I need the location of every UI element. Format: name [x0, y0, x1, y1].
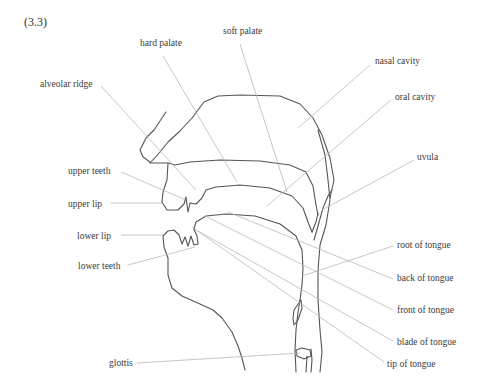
label-upper-teeth: upper teeth — [68, 166, 111, 176]
leader-soft-palate — [240, 44, 287, 192]
label-blade-of-tongue: blade of tongue — [397, 337, 456, 347]
label-upper-lip: upper lip — [68, 199, 102, 209]
glottis-right-fold — [311, 349, 312, 372]
label-alveolar-ridge: alveolar ridge — [40, 79, 93, 89]
label-uvula: uvula — [417, 152, 439, 162]
leader-lines — [101, 44, 414, 363]
leader-hard-palate — [163, 56, 237, 182]
nose-line — [140, 112, 166, 162]
anatomy-outline — [140, 95, 334, 372]
leader-alveolar-ridge — [101, 86, 196, 190]
nasal-floor — [150, 160, 318, 215]
label-soft-palate: soft palate — [223, 26, 262, 36]
leader-upper-teeth — [121, 172, 186, 200]
leader-front-of-tongue — [205, 216, 393, 310]
leader-lower-teeth — [128, 247, 195, 265]
label-back-of-tongue: back of tongue — [397, 273, 453, 283]
label-tip-of-tongue: tip of tongue — [387, 359, 436, 369]
label-glottis: glottis — [109, 358, 133, 368]
leader-tip-of-tongue — [192, 227, 384, 362]
figure-number: (3.3) — [24, 15, 47, 29]
leader-nasal-cavity — [298, 65, 370, 128]
label-nasal-cavity: nasal cavity — [375, 56, 420, 66]
nasal-cavity-outline — [150, 95, 334, 198]
label-root-of-tongue: root of tongue — [397, 240, 451, 250]
label-lower-lip: lower lip — [77, 231, 111, 241]
label-hard-palate: hard palate — [140, 38, 182, 48]
upper-lip-outline — [162, 163, 312, 232]
vocal-tract-diagram: (3.3) — [0, 0, 483, 387]
leader-glottis — [137, 353, 300, 363]
labels: hard palate soft palate nasal cavity ora… — [40, 26, 456, 369]
larynx-front-wall — [295, 300, 300, 372]
label-lower-teeth: lower teeth — [78, 261, 121, 271]
leader-uvula — [322, 160, 414, 210]
label-front-of-tongue: front of tongue — [397, 305, 454, 315]
label-oral-cavity: oral cavity — [395, 92, 436, 102]
